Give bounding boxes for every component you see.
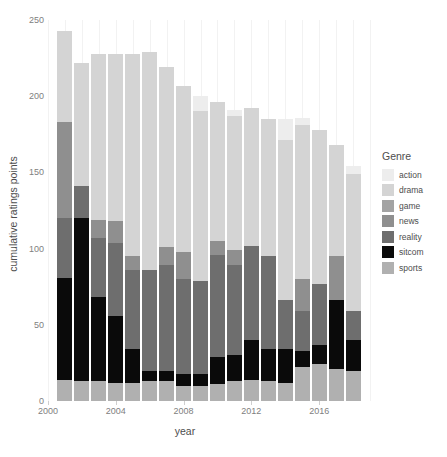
legend-label-game: game [399,201,420,211]
bar-2018[interactable] [346,166,361,401]
bar-segment-reality [74,186,89,218]
bar-segment-action [227,110,242,116]
legend-item-drama[interactable]: drama [382,183,447,199]
plot-panel [48,20,370,401]
bar-segment-sitcom [329,300,344,369]
bar-segment-sitcom [74,218,89,381]
bar-2016[interactable] [312,130,327,401]
bar-2010[interactable] [210,102,225,401]
bar-segment-reality [108,243,123,316]
bar-segment-sitcom [57,278,72,380]
bar-segment-drama [57,31,72,122]
legend-swatch-sitcom [382,246,394,258]
bar-segment-sports [74,381,89,401]
legend-items: actiondramagamenewsrealitysitcomsports [382,167,447,276]
bar-segment-drama [74,63,89,186]
bar-segment-reality [159,265,174,370]
bar-segment-reality [57,218,72,277]
legend-item-sitcom[interactable]: sitcom [382,245,447,261]
legend-swatch-drama [382,184,394,196]
x-tick-mark-2016 [319,401,320,405]
legend-swatch-sports [382,262,394,274]
y-tick-label-0: 0 [14,396,44,406]
bar-segment-action [295,118,310,126]
bar-segment-reality [346,311,361,340]
bar-2015[interactable] [295,118,310,401]
bar-2006[interactable] [142,52,157,401]
bar-segment-sitcom [210,357,225,384]
bar-segment-news [91,220,106,238]
y-tick-label-50: 50 [14,320,44,330]
x-tick-label-2000: 2000 [38,406,58,416]
bar-segment-reality [125,270,140,349]
bar-segment-sports [329,369,344,401]
legend-item-action[interactable]: action [382,167,447,183]
bar-2008[interactable] [176,86,191,401]
bar-segment-sitcom [125,349,140,383]
bar-2002[interactable] [74,63,89,401]
bar-segment-drama [346,174,361,311]
bar-2014[interactable] [278,119,293,401]
bar-segment-news [295,279,310,311]
bar-segment-sports [91,381,106,401]
bar-segment-sports [57,380,72,401]
bar-segment-sitcom [295,351,310,368]
legend-swatch-game [382,200,394,212]
x-tick-label-2012: 2012 [241,406,261,416]
bar-segment-drama [176,86,191,252]
bar-2004[interactable] [108,54,123,401]
bar-segment-reality [261,256,276,349]
bar-segment-news [176,252,191,279]
legend: Genre actiondramagamenewsrealitysitcomsp… [382,150,447,276]
bar-segment-sitcom [312,345,327,365]
bar-2003[interactable] [91,54,106,401]
bar-segment-drama [227,116,242,250]
y-tick-label-150: 150 [14,167,44,177]
bar-segment-sports [210,384,225,401]
x-tick-label-2008: 2008 [174,406,194,416]
bar-segment-drama [108,54,123,222]
bar-segment-sitcom [159,371,174,382]
bar-segment-drama [125,54,140,257]
bar-2017[interactable] [329,145,344,401]
bar-segment-sports [108,383,123,401]
legend-item-game[interactable]: game [382,198,447,214]
bar-segment-sports [193,386,208,401]
bar-segment-drama [142,52,157,270]
bar-segment-news [227,250,242,265]
bar-2007[interactable] [159,67,174,401]
legend-item-sports[interactable]: sports [382,260,447,276]
bar-segment-sitcom [261,349,276,381]
bar-2013[interactable] [261,119,276,401]
bar-segment-drama [159,67,174,247]
bar-segment-action [346,166,361,174]
bar-segment-sports [312,364,327,401]
legend-item-reality[interactable]: reality [382,229,447,245]
bar-segment-sports [278,383,293,401]
legend-label-news: news [399,216,419,226]
bar-2005[interactable] [125,54,140,401]
x-axis-title: year [0,425,370,437]
legend-swatch-action [382,169,394,181]
x-tick-label-2016: 2016 [309,406,329,416]
chart-figure: cumulative ratings points 05010015020025… [0,0,447,457]
bar-series-group [48,20,370,401]
bar-2009[interactable] [193,96,208,401]
bar-2011[interactable] [227,110,242,401]
bar-segment-reality [142,270,157,371]
bar-segment-sports [176,386,191,401]
bar-segment-news [159,247,174,265]
bar-segment-sitcom [244,340,259,380]
bar-segment-sports [261,381,276,401]
grid-line-vertical [370,20,371,401]
bar-segment-reality [176,279,191,373]
bar-2001[interactable] [57,31,72,401]
legend-item-news[interactable]: news [382,214,447,230]
y-axis-tick-labels: 050100150200250 [14,0,44,457]
bar-segment-sitcom [91,297,106,381]
legend-label-sitcom: sitcom [399,247,424,257]
bar-segment-action [278,119,293,140]
bar-segment-news [125,256,140,270]
bar-2012[interactable] [244,108,259,401]
bar-segment-sports [346,371,361,401]
